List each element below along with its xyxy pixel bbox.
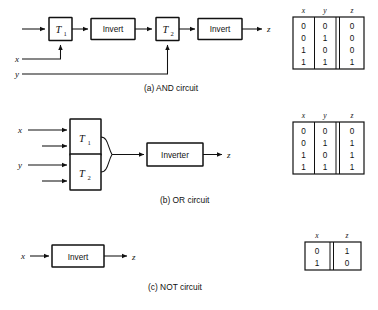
or-table-cell-y-1: 1 — [323, 139, 328, 148]
and-table-cell-x-3: 1 — [301, 58, 306, 67]
or-circuit: x T 1 y T 2 Inverter — [17, 119, 231, 205]
and-table-header-x: x — [301, 6, 306, 15]
and-table-cell-z-1: 0 — [350, 34, 355, 43]
and-input-label-y: y — [14, 69, 19, 79]
and-output-label-z: z — [266, 24, 271, 34]
circuit-diagram-canvas: T 1 Invert T 2 Invert z x — [0, 0, 378, 310]
not-table-cell-x-0: 0 — [315, 247, 320, 256]
or-block-t1 — [70, 119, 101, 155]
or-table-cell-z-1: 1 — [350, 139, 355, 148]
or-table-cell-z-3: 1 — [350, 163, 355, 172]
and-circuit-caption: (a) AND circuit — [144, 83, 199, 93]
and-table-cell-z-2: 0 — [350, 46, 355, 55]
or-truth-table: x y z 0 0 1 1 0 1 0 1 0 1 1 1 — [293, 111, 364, 174]
not-table-header-x: x — [314, 231, 319, 240]
and-block-t2-subscript: 2 — [171, 30, 174, 37]
and-wire-x-to-t1 — [22, 45, 61, 59]
not-table-cell-x-1: 1 — [315, 259, 320, 268]
or-block-t2-subscript: 2 — [88, 174, 91, 181]
and-table-cell-z-0: 0 — [350, 22, 355, 31]
or-table-cell-z-0: 0 — [350, 127, 355, 136]
or-table-cell-x-2: 1 — [301, 151, 306, 160]
not-output-label-z: z — [131, 252, 136, 262]
or-table-cell-x-1: 0 — [301, 139, 306, 148]
or-table-cell-y-3: 1 — [323, 163, 328, 172]
and-table-cell-x-1: 0 — [301, 34, 306, 43]
or-block-t2 — [70, 154, 101, 190]
or-table-cell-x-3: 1 — [301, 163, 306, 172]
and-block-invert2-label: Invert — [210, 25, 231, 34]
or-wire-t2-merge — [101, 155, 112, 173]
and-table-header-y: y — [322, 6, 327, 15]
and-table-cell-y-1: 1 — [323, 34, 328, 43]
or-input-label-x: x — [17, 125, 22, 135]
or-table-header-x: x — [301, 111, 306, 120]
and-table-cell-y-2: 0 — [323, 46, 328, 55]
not-truth-table: x z 0 1 1 0 — [305, 231, 361, 270]
not-circuit-caption: (c) NOT circuit — [148, 282, 202, 292]
or-table-header-z: z — [350, 111, 354, 120]
figure-logic-circuits: T 1 Invert T 2 Invert z x — [0, 0, 378, 310]
and-table-header-z: z — [350, 6, 354, 15]
not-circuit: x Invert z (c) NOT circuit — [20, 245, 202, 292]
and-table-cell-x-2: 1 — [301, 46, 306, 55]
or-block-t1-subscript: 1 — [88, 139, 91, 146]
and-block-t1-subscript: 1 — [64, 30, 67, 37]
and-input-label-x: x — [14, 54, 19, 64]
or-wire-t1-merge — [101, 137, 112, 155]
and-table-cell-z-3: 1 — [350, 58, 355, 67]
and-table-cell-y-3: 1 — [323, 58, 328, 67]
or-table-cell-x-0: 0 — [301, 127, 306, 136]
not-block-invert-label: Invert — [68, 253, 89, 262]
or-table-cell-y-0: 0 — [323, 127, 328, 136]
and-table-cell-y-0: 0 — [323, 22, 328, 31]
and-truth-table: x y z 0 0 1 1 0 1 0 1 0 0 0 1 — [293, 6, 364, 69]
not-table-cell-z-1: 0 — [345, 259, 350, 268]
and-block-invert1-label: Invert — [103, 25, 124, 34]
and-circuit: T 1 Invert T 2 Invert z x — [14, 18, 271, 94]
not-input-label-x: x — [20, 251, 25, 261]
or-output-label-z: z — [226, 150, 231, 160]
or-table-cell-y-2: 0 — [323, 151, 328, 160]
or-circuit-caption: (b) OR circuit — [160, 195, 210, 205]
or-table-cell-z-2: 1 — [350, 151, 355, 160]
and-table-cell-x-0: 0 — [301, 22, 306, 31]
or-input-label-y: y — [17, 160, 22, 170]
not-table-header-z: z — [345, 231, 349, 240]
or-block-inverter-label: Inverter — [161, 151, 189, 160]
or-table-header-y: y — [322, 111, 327, 120]
not-table-cell-z-0: 1 — [345, 247, 350, 256]
